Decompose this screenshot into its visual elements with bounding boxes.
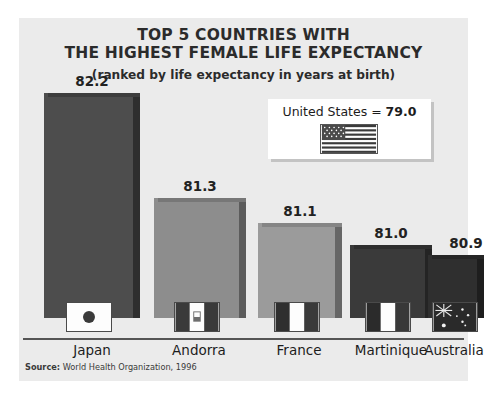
chart-panel: TOP 5 COUNTRIES WITH THE HIGHEST FEMALE …: [19, 18, 468, 381]
bar-group-australia: 80.9: [439, 255, 485, 338]
bar-top-andorra: [158, 198, 246, 202]
martinique-flag-icon: [365, 302, 411, 332]
bar-andorra: [154, 198, 246, 318]
japan-flag-icon: [66, 302, 112, 332]
bar-group-japan: 82.2: [44, 93, 140, 338]
category-label-andorra: Andorra: [152, 342, 246, 358]
bar-value-france: 81.1: [258, 203, 342, 219]
bar-top-japan: [48, 93, 140, 97]
bar-value-japan: 82.2: [44, 73, 140, 89]
andorra-flag-icon: [174, 302, 220, 332]
bar-side-andorra: [239, 202, 246, 318]
bar-side-japan: [133, 97, 140, 318]
bar-value-australia: 80.9: [428, 235, 485, 251]
australia-flag-icon: [432, 302, 478, 332]
source-prefix: Source:: [25, 362, 60, 372]
bar-group-andorra: 81.3: [154, 198, 246, 338]
source-text: World Health Organization, 1996: [63, 362, 197, 372]
martinique-flag-svg: [366, 303, 410, 331]
bar-group-france: 81.1: [258, 223, 342, 338]
bar-group-martinique: 81.0: [350, 245, 432, 338]
source-note: Source: World Health Organization, 1996: [25, 362, 197, 372]
bar-value-andorra: 81.3: [154, 178, 246, 194]
andorra-flag-svg: [175, 303, 219, 331]
category-label-australia: Australia: [407, 342, 485, 358]
bar-side-australia: [477, 259, 484, 318]
category-label-japan: Japan: [44, 342, 140, 358]
bar-japan: [44, 93, 140, 318]
category-label-france: France: [256, 342, 342, 358]
japan-flag-svg: [67, 303, 111, 331]
bar-value-martinique: 81.0: [350, 225, 432, 241]
bar-top-france: [262, 223, 342, 227]
bar-top-australia: [432, 255, 484, 259]
bar-side-france: [335, 227, 342, 318]
france-flag-icon: [274, 302, 320, 332]
france-flag-svg: [275, 303, 319, 331]
axis-baseline: [23, 338, 464, 340]
bar-top-martinique: [354, 245, 432, 249]
australia-flag-svg: [433, 303, 477, 331]
plot-area: 82.2 81.3: [19, 18, 468, 381]
bar-face-japan: [44, 93, 133, 318]
bar-face-andorra: [154, 198, 239, 318]
